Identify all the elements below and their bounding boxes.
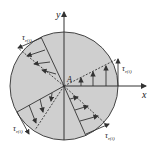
- torsion-diagram: y x A τr(i) τr(i) τr(i) τr(i): [0, 0, 160, 153]
- stress-label-right: τr(i): [122, 64, 132, 74]
- y-axis-label: y: [55, 9, 61, 20]
- stress-label-upper-left: τr(i): [22, 33, 32, 43]
- stress-label-lower-right: τr(i): [105, 131, 115, 141]
- stress-label-lower-left: τr(i): [13, 124, 23, 134]
- x-axis-label: x: [141, 89, 147, 100]
- point-a-label: A: [66, 75, 72, 84]
